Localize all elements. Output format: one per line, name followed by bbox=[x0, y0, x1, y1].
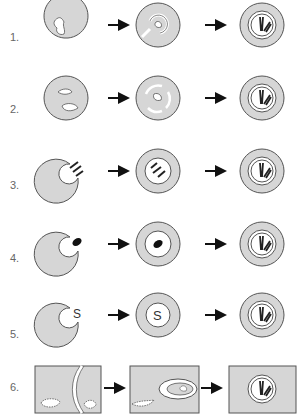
row-3 bbox=[34, 149, 284, 203]
row-5: S S bbox=[34, 293, 284, 347]
row-1 bbox=[44, 0, 284, 47]
row-2 bbox=[44, 76, 284, 120]
diagram-canvas: S S bbox=[0, 0, 300, 419]
row-4 bbox=[34, 222, 284, 276]
svg-text:S: S bbox=[73, 307, 81, 321]
row-6 bbox=[35, 366, 296, 413]
svg-text:S: S bbox=[153, 308, 162, 323]
